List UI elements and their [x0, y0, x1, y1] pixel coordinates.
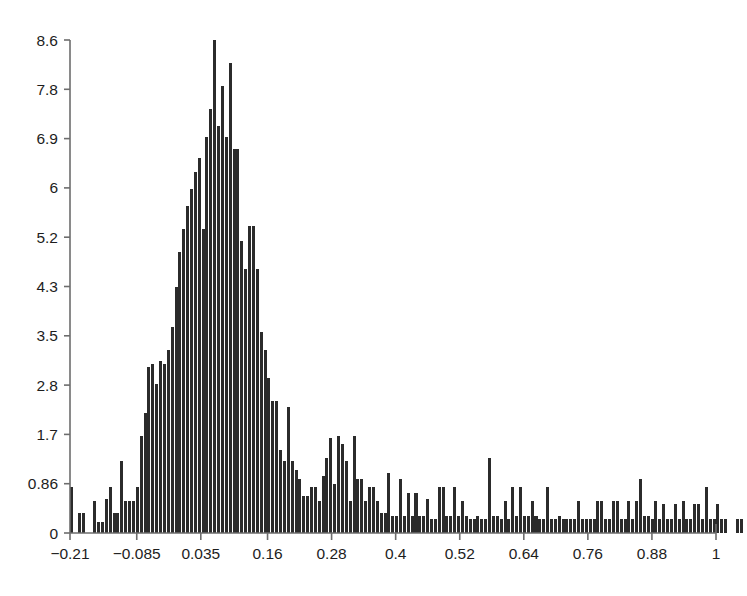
histogram-bar	[279, 450, 282, 533]
histogram-bar	[647, 516, 650, 533]
histogram-bar	[221, 86, 224, 533]
y-tick-label: 6.9	[36, 130, 58, 147]
histogram-bar	[407, 493, 410, 533]
histogram-bar	[376, 501, 379, 533]
histogram-bar	[364, 501, 367, 533]
histogram-bar	[593, 519, 596, 533]
histogram-bar	[287, 407, 290, 533]
histogram-bar	[97, 522, 100, 533]
histogram-bar	[372, 487, 375, 533]
histogram-bar	[604, 519, 607, 533]
histogram-bar	[418, 516, 421, 533]
histogram-bar	[240, 241, 243, 533]
histogram-bar	[349, 501, 352, 533]
histogram-bar	[608, 519, 611, 533]
histogram-bar	[248, 226, 251, 533]
histogram-bar	[101, 522, 104, 533]
histogram-bar	[275, 401, 278, 533]
y-tick-label: 1.7	[36, 426, 58, 443]
histogram-bar	[147, 367, 150, 533]
histogram-bar	[538, 519, 541, 533]
histogram-bar	[469, 519, 472, 533]
histogram-bar	[716, 504, 719, 533]
histogram-bar	[182, 229, 185, 533]
histogram-bar	[225, 137, 228, 533]
histogram-bar	[186, 206, 189, 533]
histogram-bar	[651, 519, 654, 533]
histogram-bar	[697, 504, 700, 533]
histogram-bar	[515, 516, 518, 533]
histogram-bar	[519, 487, 522, 533]
histogram-bar	[662, 504, 665, 533]
histogram-bar	[175, 287, 178, 534]
histogram-bar	[155, 384, 158, 533]
histogram-bar	[295, 470, 298, 533]
histogram-bar	[480, 519, 483, 533]
histogram-bar	[624, 519, 627, 533]
histogram-bar	[449, 516, 452, 533]
histogram-bar	[554, 519, 557, 533]
histogram-bar	[244, 269, 247, 533]
histogram-bar	[105, 499, 108, 533]
histogram-bar	[534, 516, 537, 533]
histogram-bar	[585, 519, 588, 533]
y-tick-label: 4.3	[36, 278, 58, 295]
histogram-bar	[627, 501, 630, 533]
histogram-bar	[589, 519, 592, 533]
histogram-bar	[314, 487, 317, 533]
histogram-bar	[457, 516, 460, 533]
x-tick-label: 0.64	[509, 545, 540, 562]
histogram-bar	[291, 461, 294, 533]
histogram-bar	[163, 364, 166, 533]
histogram-bar	[399, 479, 402, 533]
histogram-bar	[670, 519, 673, 533]
histogram-bar	[631, 519, 634, 533]
histogram-bar	[654, 501, 657, 533]
histogram-bar	[411, 516, 414, 533]
histogram-bar	[178, 252, 181, 533]
y-tick-label: 0	[49, 525, 58, 542]
histogram-bar	[190, 189, 193, 533]
histogram-bar	[488, 458, 491, 533]
histogram-bar	[693, 504, 696, 533]
histogram-bar	[701, 519, 704, 533]
histogram-bar	[260, 332, 263, 533]
histogram-bar	[550, 519, 553, 533]
histogram-bar	[151, 364, 154, 533]
histogram-bar	[233, 149, 236, 533]
x-tick-label: 0.28	[317, 545, 347, 562]
histogram-bar	[434, 519, 437, 533]
histogram-bar	[666, 519, 669, 533]
histogram-bar	[724, 519, 727, 533]
histogram-bar	[322, 476, 325, 533]
histogram-bar	[267, 378, 270, 533]
histogram-bar	[333, 484, 336, 533]
histogram-bar	[616, 501, 619, 533]
histogram-bar	[109, 487, 112, 533]
histogram-bar	[705, 487, 708, 533]
x-tick-label: −0.21	[50, 545, 89, 562]
histogram-bar	[194, 172, 197, 533]
histogram-bar	[167, 350, 170, 533]
y-tick-label: 2.8	[36, 377, 58, 394]
histogram-bar	[426, 499, 429, 533]
histogram-bar	[689, 519, 692, 533]
histogram-bar	[504, 501, 507, 533]
histogram-bar	[709, 519, 712, 533]
histogram-bar	[473, 519, 476, 533]
histogram-bar	[306, 496, 309, 533]
histogram-bar	[430, 519, 433, 533]
histogram-bar	[113, 513, 116, 533]
histogram-bar	[302, 496, 305, 533]
histogram-bar	[565, 519, 568, 533]
histogram-bar	[500, 519, 503, 533]
histogram-bar	[205, 137, 208, 533]
histogram-bar	[531, 501, 534, 533]
histogram-bar	[740, 519, 743, 533]
histogram-bar	[496, 516, 499, 533]
histogram-bar	[465, 516, 468, 533]
histogram-bar	[140, 436, 143, 533]
histogram-bar	[736, 519, 739, 533]
histogram-bar	[685, 519, 688, 533]
histogram-bar	[674, 504, 677, 533]
